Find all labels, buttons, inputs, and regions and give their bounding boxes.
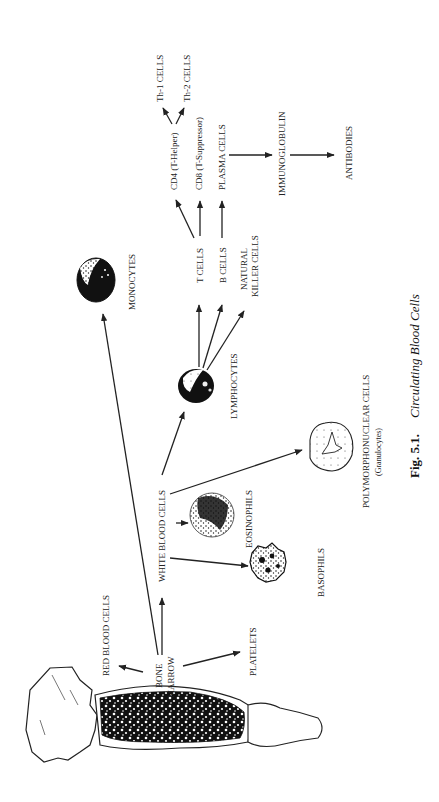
platelets-label: PLATELETS xyxy=(248,628,258,677)
th1-label: Th-1 CELLS xyxy=(155,55,165,102)
white-blood-cells-label: WHITE BLOOD CELLS xyxy=(157,490,167,582)
lymphocytes-label: LYMPHOCYTES xyxy=(229,353,239,419)
eosinophil-cell xyxy=(190,493,234,537)
arrow-cd4-to-th1 xyxy=(163,108,172,124)
cd8-label: CD8 (T-Suppressor) xyxy=(194,117,204,190)
granulocytes-label: (Granulocytes) xyxy=(374,428,383,476)
polymorphonuclear-label: POLYMORPHONUCLEAR CELLS xyxy=(361,375,371,508)
marrow-label: MARROW xyxy=(166,656,176,698)
red-blood-cells-label: RED BLOOD CELLS xyxy=(101,595,111,676)
natural-label: NATURAL xyxy=(239,248,249,290)
arrow-lymph-to-bcells xyxy=(203,305,222,368)
b-cells-label: B CELLS xyxy=(218,247,228,283)
arrow-cd4-to-th2 xyxy=(176,108,184,124)
bone-label: BONE xyxy=(154,663,164,688)
arrow-wbc-to-polymorphonuclear xyxy=(170,450,302,494)
caption-number: Fig. 5.1. xyxy=(407,434,422,478)
polymorphonuclear-cell xyxy=(310,422,353,471)
arrow-wbc-to-basophils xyxy=(170,558,248,566)
arrow-marrow-to-platelets xyxy=(183,652,240,666)
eosinophils-label: EOSINOPHILS xyxy=(244,490,254,548)
caption-title: Circulating Blood Cells xyxy=(407,294,422,418)
basophils-label: BASOPHILS xyxy=(316,548,326,597)
arrow-tcells-to-cd4 xyxy=(176,200,194,238)
arrow-marrow-to-rbc xyxy=(119,666,143,672)
antibodies-label: ANTIBODIES xyxy=(344,126,354,180)
immunoglobulin-label: IMMUNOGLOBULIN xyxy=(277,111,287,196)
cd4-label: CD4 (T-Helper) xyxy=(169,133,179,190)
arrow-wbc-to-lymphocytes xyxy=(162,412,184,475)
t-cells-label: T CELLS xyxy=(195,248,205,283)
plasma-cells-label: PLASMA CELLS xyxy=(217,124,227,190)
lymphocyte-cell xyxy=(178,369,214,403)
monocytes-label: MONOCYTES xyxy=(127,254,137,310)
arrow-marrow-to-monocytes xyxy=(103,314,158,655)
monocyte-cell xyxy=(77,258,115,302)
blood-cells-diagram: BONE MARROW RED BLOOD CELLS PLATELETS WH… xyxy=(0,0,439,802)
th2-label: Th-2 CELLS xyxy=(182,55,192,102)
figure-caption: Fig. 5.1. Circulating Blood Cells xyxy=(407,294,422,478)
killer-cells-label: KILLER CELLS xyxy=(250,235,260,297)
basophil-cell xyxy=(250,543,286,582)
